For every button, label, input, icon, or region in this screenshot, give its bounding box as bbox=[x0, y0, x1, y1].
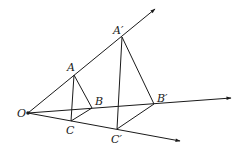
label-a: A bbox=[66, 61, 75, 74]
segment-ac bbox=[71, 75, 74, 121]
ray-oc bbox=[28, 113, 180, 141]
label-c-prime: C′ bbox=[111, 133, 122, 146]
label-c: C bbox=[66, 124, 75, 137]
segment-a2b2 bbox=[122, 37, 154, 104]
ray-oa bbox=[28, 9, 155, 113]
label-o: O bbox=[17, 107, 26, 120]
ray-ob bbox=[28, 98, 231, 113]
segment-a2c2 bbox=[117, 37, 122, 129]
label-a-prime: A′ bbox=[112, 24, 124, 37]
point-o-dot bbox=[26, 111, 30, 115]
label-b-prime: B′ bbox=[156, 92, 168, 105]
segment-ab bbox=[74, 75, 92, 108]
segment-b2c2 bbox=[117, 104, 154, 129]
label-b: B bbox=[94, 95, 103, 108]
homothety-diagram: O A B C A′ B′ C′ bbox=[0, 0, 248, 152]
